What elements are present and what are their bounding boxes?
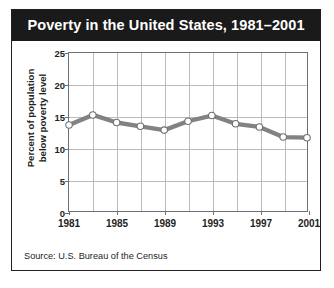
x-axis-tick-label: 1989 — [142, 218, 188, 229]
chart-title-bar: Poverty in the United States, 1981–2001 — [12, 10, 320, 41]
chart-body: Percent of population below poverty leve… — [12, 41, 320, 272]
x-axis-tick-mark — [309, 211, 310, 215]
data-point-marker — [256, 124, 263, 131]
x-axis-tick-mark — [165, 211, 166, 215]
data-point-marker — [209, 112, 216, 119]
data-point-marker — [113, 119, 120, 126]
page-title: Poverty in the United States, 1981–2001 — [12, 10, 320, 41]
y-axis-tick-label: 10 — [35, 144, 65, 155]
data-point-marker — [280, 134, 287, 141]
x-axis-tick-label: 1997 — [238, 218, 284, 229]
data-point-marker — [90, 112, 97, 119]
x-axis-tick-label: 2001 — [286, 218, 332, 229]
x-axis-tick-mark — [261, 211, 262, 215]
x-axis-tick-mark — [117, 211, 118, 215]
x-axis-tick-label: 1985 — [94, 218, 140, 229]
chart-figure: Poverty in the United States, 1981–2001 … — [11, 9, 321, 271]
data-series-line — [69, 53, 307, 211]
data-point-marker — [232, 121, 239, 128]
source-note: Source: U.S. Bureau of the Census — [24, 251, 168, 261]
x-axis-tick-mark — [213, 211, 214, 215]
x-axis-tick-mark — [69, 211, 70, 215]
data-point-marker — [137, 123, 144, 130]
y-axis-tick-label: 25 — [35, 48, 65, 59]
data-point-marker — [161, 127, 168, 134]
y-axis-tick-label: 20 — [35, 80, 65, 91]
x-axis-tick-label: 1981 — [46, 218, 92, 229]
data-point-marker — [66, 122, 73, 129]
y-axis-tick-label: 15 — [35, 112, 65, 123]
y-axis-tick-label: 0 — [35, 208, 65, 219]
x-axis-tick-label: 1993 — [190, 218, 236, 229]
y-axis-tick-label: 5 — [35, 176, 65, 187]
data-point-marker — [304, 134, 311, 141]
plot-area: 0510152025 198119851989199319972001 — [68, 52, 308, 212]
data-point-marker — [185, 118, 192, 125]
